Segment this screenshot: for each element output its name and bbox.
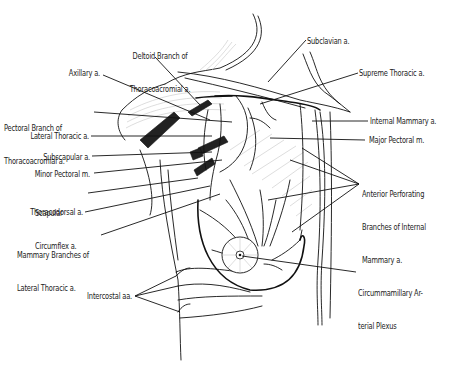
label-line: terial Plexus — [358, 321, 423, 332]
label-line: Mammary Branches of — [17, 250, 89, 261]
label-line: Branches of Internal — [362, 222, 426, 233]
arteries — [196, 95, 320, 270]
label-axillary: Axillary a. — [23, 68, 100, 79]
label-circummamillary: Circummamillary Ar- terial Plexus — [358, 266, 423, 354]
label-line: Mammary a. — [362, 255, 426, 266]
ribs — [176, 268, 262, 318]
label-thoracodorsal: Thoracodorsal a. — [12, 207, 83, 218]
label-supreme-thoracic: Supreme Thoracic a. — [359, 68, 424, 79]
label-line: Deltoid Branch of — [117, 51, 203, 62]
label-lateral-thoracic: Lateral Thoracic a. — [12, 131, 89, 142]
breast-hatching — [230, 130, 312, 216]
breast-arterial-supply-diagram: Deltoid Branch of Thoracoacromial a. Sub… — [0, 0, 460, 373]
label-internal-mammary: Internal Mammary a. — [370, 116, 436, 127]
label-line: Anterior Perforating — [362, 189, 426, 200]
label-intercostal: Intercostal aa. — [53, 291, 132, 302]
label-subclavian: Subclavian a. — [307, 36, 349, 47]
label-minor-pectoral: Minor Pectoral m. — [13, 169, 90, 180]
label-line: Circummamillary Ar- — [358, 288, 423, 299]
label-line: Thoracoacromial a. — [117, 84, 203, 95]
label-mammary-branches: Mammary Branches of Lateral Thoracic a. — [17, 228, 89, 316]
areola — [222, 237, 258, 273]
label-subscapular: Subscapular a. — [13, 152, 90, 163]
label-deltoid-branch: Deltoid Branch of Thoracoacromial a. — [117, 29, 203, 117]
label-major-pectoral: Major Pectoral m. — [369, 135, 424, 146]
